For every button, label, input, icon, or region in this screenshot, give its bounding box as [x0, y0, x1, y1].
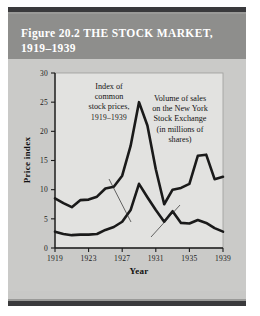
volume-annotation-line: shares)	[168, 135, 191, 144]
volume-annotation-line: Stock Exchange	[154, 114, 207, 123]
y-axis-tick-label: 25	[40, 98, 48, 107]
stock-market-line-chart: 051015202530 191919231927193119351939 In…	[8, 59, 246, 291]
volume-annotation-line: (in millions of	[157, 125, 204, 134]
y-axis-tick-label: 5	[44, 215, 48, 224]
bottom-rule-divider	[8, 301, 246, 306]
x-axis-tick-label: 1939	[215, 254, 231, 263]
volume-annotation-line: on the New York	[152, 104, 208, 113]
price-index-annotation-line: Index of	[95, 82, 123, 91]
x-axis-tick-label: 1935	[181, 254, 197, 263]
volume-annotation-line: Volume of sales	[154, 94, 206, 103]
price-index-annotation-line: 1919–1939	[91, 113, 127, 122]
y-axis-tick-group: 051015202530	[40, 69, 55, 253]
x-axis-tick-group: 191919231927193119351939	[47, 248, 231, 263]
figure-title: Figure 20.2 THE STOCK MARKET, 1919–1939	[21, 26, 236, 56]
y-axis-title: Price index	[22, 137, 32, 184]
x-axis-tick-label: 1931	[148, 254, 164, 263]
y-axis-tick-label: 20	[40, 127, 48, 136]
y-axis-tick-label: 30	[40, 69, 48, 78]
figure-title-line-2: 1919–1939	[21, 42, 76, 54]
x-axis-tick-label: 1919	[47, 254, 63, 263]
figure-title-line-1: Figure 20.2 THE STOCK MARKET,	[21, 27, 213, 39]
y-axis-tick-label: 10	[40, 185, 48, 194]
price-index-annotation-line: stock prices,	[89, 102, 130, 111]
figure-card: Figure 20.2 THE STOCK MARKET, 1919–1939 …	[8, 7, 246, 306]
figure-header-band: Figure 20.2 THE STOCK MARKET, 1919–1939	[8, 14, 246, 59]
y-axis-tick-label: 0	[44, 244, 48, 253]
x-axis-tick-label: 1927	[114, 254, 130, 263]
y-axis-tick-label: 15	[40, 156, 48, 165]
chart-body: 051015202530 191919231927193119351939 In…	[8, 59, 246, 291]
price-index-annotation-line: common	[95, 92, 124, 101]
x-axis-tick-label: 1923	[80, 254, 96, 263]
x-axis-title: Year	[129, 266, 148, 276]
